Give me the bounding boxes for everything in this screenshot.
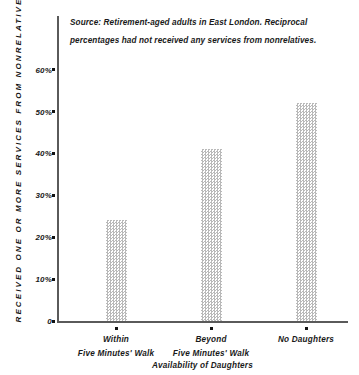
x-tick-dot	[305, 327, 308, 330]
y-tick-dot	[52, 194, 55, 197]
x-tick-label: No Daughters	[251, 333, 359, 347]
x-tick-label: BeyondFive Minutes' Walk	[156, 333, 266, 361]
y-tick-dot	[52, 320, 55, 323]
x-tick-label-line: Five Minutes' Walk	[156, 347, 266, 361]
x-tick-label: WithinFive Minutes' Walk	[61, 333, 171, 361]
y-tick-dot	[52, 236, 55, 239]
y-axis-title: RECEIVED ONE OR MORE SERVICES FROM NONRE…	[14, 23, 23, 323]
x-tick-label-line: Within	[61, 333, 171, 347]
y-tick-label: 10%	[35, 275, 52, 284]
x-axis-title: Availability of Daughters	[57, 361, 348, 370]
x-axis-line	[57, 321, 348, 323]
y-tick-dot	[52, 152, 55, 155]
x-tick-label-line: No Daughters	[251, 333, 359, 347]
y-tick-label: 60%	[35, 66, 52, 75]
y-tick-label: 30%	[35, 191, 52, 200]
bar	[106, 220, 127, 321]
bar	[201, 149, 222, 321]
x-tick-dot	[115, 327, 118, 330]
y-tick-label: 50%	[35, 108, 52, 117]
chart-figure: Source: Retirement-aged adults in East L…	[0, 0, 359, 375]
y-tick-dot	[52, 68, 55, 71]
x-tick-label-line: Five Minutes' Walk	[61, 347, 171, 361]
y-tick-dot	[52, 110, 55, 113]
bar	[296, 103, 317, 321]
y-tick-dot	[52, 278, 55, 281]
x-tick-dot	[210, 327, 213, 330]
plot-area	[59, 16, 348, 321]
y-tick-label: 40%	[35, 149, 52, 158]
y-tick-label: 20%	[35, 233, 52, 242]
x-tick-label-line: Beyond	[156, 333, 266, 347]
